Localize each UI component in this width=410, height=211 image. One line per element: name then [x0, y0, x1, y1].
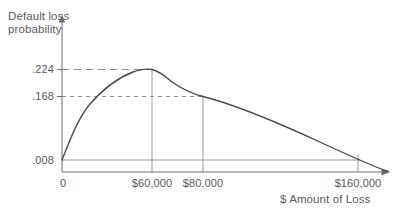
data-curve: [62, 69, 388, 171]
chart-container: Default lossprobability .224 .168 .008 0…: [0, 0, 410, 211]
x-tick-label-origin: 0: [56, 177, 70, 190]
x-axis-title: $ Amount of Loss: [280, 193, 370, 206]
y-tick-label-008: .008: [14, 154, 54, 167]
y-axis-title-line2: probability: [8, 23, 62, 35]
x-tick-label-160000: $160,000: [326, 177, 390, 190]
y-tick-label-224: .224: [14, 63, 54, 76]
y-axis-title: Default lossprobability: [8, 10, 118, 36]
y-axis-title-line1: Default loss: [8, 10, 69, 22]
y-tick-label-168: .168: [14, 90, 54, 103]
x-tick-label-80000: $80,000: [171, 177, 235, 190]
